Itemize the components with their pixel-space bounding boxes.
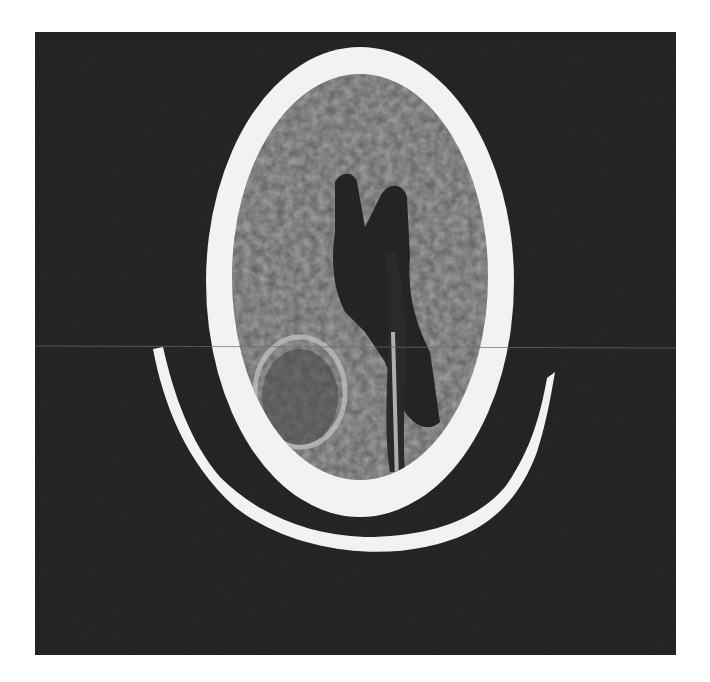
ct-scan-panel	[35, 32, 676, 655]
ct-scan-image	[35, 32, 676, 655]
